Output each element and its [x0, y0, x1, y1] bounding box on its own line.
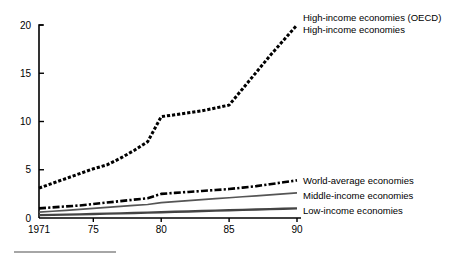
series-line-high-income-economies-oecd	[39, 25, 297, 188]
series-legend-labels: High-income economies (OECD)High-income …	[303, 12, 441, 216]
y-tick-10: 10	[20, 116, 32, 127]
x-axis-tick-labels: 197175808590	[28, 224, 303, 235]
chart-series-lines	[39, 25, 297, 215]
legend-label-high-income-economies-oecd: High-income economies (OECD)	[303, 12, 441, 23]
x-tick-90: 90	[291, 224, 303, 235]
chart-figure: 05101520 197175808590 High-income econom…	[0, 0, 468, 263]
legend-label-high-income-economies: High-income economies	[303, 24, 405, 35]
legend-label-middle-income-economies: Middle-income economies	[303, 190, 414, 201]
y-tick-0: 0	[25, 213, 31, 224]
x-tick-85: 85	[224, 224, 236, 235]
x-tick-75: 75	[88, 224, 100, 235]
y-tick-20: 20	[20, 20, 32, 31]
legend-label-world-average-economies: World-average economies	[303, 175, 414, 186]
y-tick-5: 5	[25, 164, 31, 175]
series-line-world-average-economies	[39, 180, 297, 208]
y-axis-tick-labels: 05101520	[20, 20, 32, 224]
line-chart-canvas: 05101520 197175808590 High-income econom…	[0, 0, 468, 263]
legend-label-low-income-economies: Low-income economies	[303, 205, 403, 216]
x-tick-1971: 1971	[28, 224, 51, 235]
y-tick-15: 15	[20, 68, 32, 79]
x-tick-80: 80	[156, 224, 168, 235]
